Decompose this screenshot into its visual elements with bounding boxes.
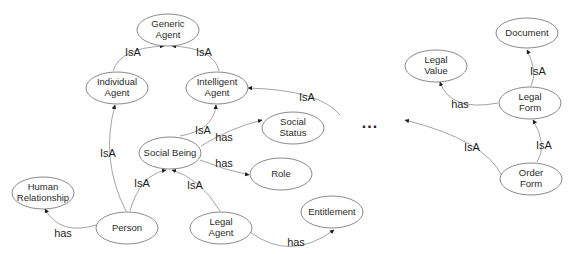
edge-label-has: has [215, 157, 233, 169]
edge-label-has: has [451, 98, 469, 110]
node-legal-value: Legal Value [405, 50, 467, 82]
edge-label-isa: IsA [134, 177, 151, 189]
node-individual-agent: Individual Agent [86, 72, 148, 104]
node-role: Role [250, 158, 312, 190]
svg-text:Entitlement: Entitlement [308, 206, 356, 217]
svg-text:Order: Order [519, 167, 543, 178]
edge-label-has: has [54, 227, 72, 239]
svg-text:Person: Person [112, 222, 142, 233]
node-person: Person [96, 212, 158, 244]
svg-text:Form: Form [520, 178, 542, 189]
edge-label-isa: IsA [100, 147, 117, 159]
svg-text:Agent: Agent [205, 87, 230, 98]
svg-text:Agent: Agent [105, 87, 130, 98]
svg-text:Agent: Agent [156, 29, 181, 40]
svg-text:Social: Social [280, 116, 306, 127]
edge-legalform-has-value [440, 82, 498, 105]
edge-label-isa: IsA [464, 141, 481, 153]
svg-text:Form: Form [519, 102, 541, 113]
node-legal-agent: Legal Agent [190, 212, 252, 244]
edge-label-has: has [215, 131, 233, 143]
node-entitlement: Entitlement [301, 196, 363, 228]
svg-text:Social Being: Social Being [144, 147, 197, 158]
node-generic-agent: Generic Agent [137, 14, 199, 46]
node-legal-form: Legal Form [499, 87, 561, 119]
svg-text:Intelligent: Intelligent [197, 76, 238, 87]
node-intelligent-agent: Intelligent Agent [186, 72, 248, 104]
edge-label-isa: IsA [195, 124, 212, 136]
node-social-status: Social Status [262, 112, 324, 144]
edge-label-has: has [287, 236, 305, 248]
edge-label-isa: IsA [536, 139, 553, 151]
node-document: Document [496, 18, 558, 48]
svg-text:Generic: Generic [151, 18, 185, 29]
ellipsis-placeholder: ... [362, 114, 378, 131]
svg-text:Human: Human [28, 181, 59, 192]
edge-person-has-relationship [45, 209, 96, 228]
svg-text:Legal: Legal [424, 54, 447, 65]
edge-label-isa: IsA [196, 46, 213, 58]
svg-text:Document: Document [505, 27, 549, 38]
node-order-form: Order Form [500, 163, 562, 195]
svg-text:Individual: Individual [97, 76, 137, 87]
svg-text:Legal: Legal [518, 91, 541, 102]
ontology-diagram: IsA IsA IsA IsA IsA has has IsA IsA has … [0, 0, 576, 254]
node-human-relationship: Human Relationship [12, 177, 74, 209]
diagram-svg: IsA IsA IsA IsA IsA has has IsA IsA has … [0, 0, 576, 254]
node-social-being: Social Being [139, 137, 201, 169]
svg-text:Role: Role [271, 168, 291, 179]
edge-ellipsis-isa-intelligent [248, 88, 340, 115]
edge-label-isa: IsA [299, 91, 316, 103]
svg-text:Agent: Agent [209, 227, 234, 238]
edge-label-isa: IsA [125, 46, 142, 58]
edge-order-isa-ellipsis [405, 120, 502, 176]
svg-text:Value: Value [424, 65, 448, 76]
edge-label-isa: IsA [530, 65, 547, 77]
svg-text:Relationship: Relationship [17, 192, 69, 203]
edge-label-isa: IsA [187, 179, 204, 191]
svg-text:Legal: Legal [209, 216, 232, 227]
svg-text:Status: Status [280, 127, 307, 138]
